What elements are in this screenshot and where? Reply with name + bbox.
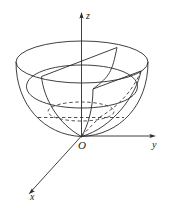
top-rim-ellipse bbox=[16, 41, 148, 83]
inner-ellipse-hidden bbox=[48, 102, 114, 121]
wedge-sector-top bbox=[42, 48, 118, 77]
bowl-group bbox=[16, 41, 148, 137]
x-axis-line bbox=[32, 136, 82, 191]
paraboloid-figure: z y x O bbox=[0, 0, 171, 208]
z-axis-label: z bbox=[86, 11, 90, 21]
wedge-radial-edge-right-lower bbox=[82, 89, 94, 137]
x-axis-label: x bbox=[30, 192, 34, 202]
wedge-group bbox=[42, 48, 142, 137]
origin-label: O bbox=[78, 140, 86, 151]
y-axis-label: y bbox=[152, 140, 156, 150]
mid-cross-section-ellipse bbox=[27, 87, 138, 109]
wedge-sector-top-2 bbox=[93, 71, 141, 89]
figure-canvas bbox=[0, 0, 171, 208]
